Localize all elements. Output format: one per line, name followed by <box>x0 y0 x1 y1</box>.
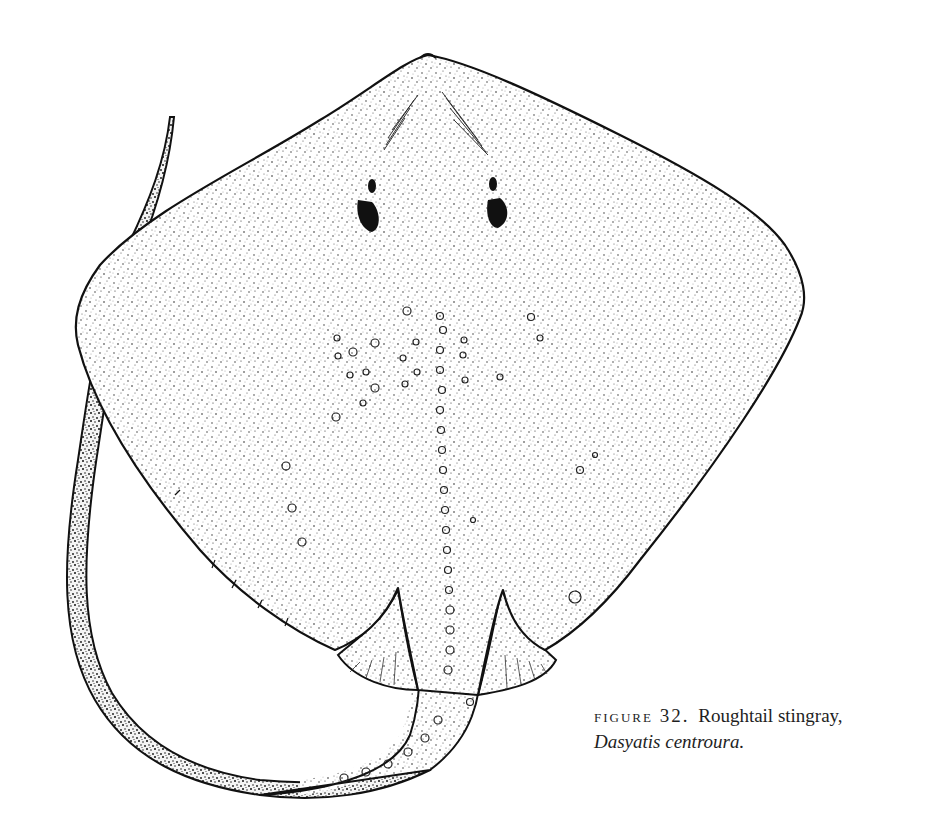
common-name: Roughtail stingray, <box>698 705 842 726</box>
figure-label: FIGURE 32. <box>594 705 689 726</box>
scientific-name: Dasyatis centroura. <box>594 729 843 755</box>
disc-body <box>76 55 804 695</box>
figure-caption: FIGURE 32. Roughtail stingray, Dasyatis … <box>594 703 843 755</box>
